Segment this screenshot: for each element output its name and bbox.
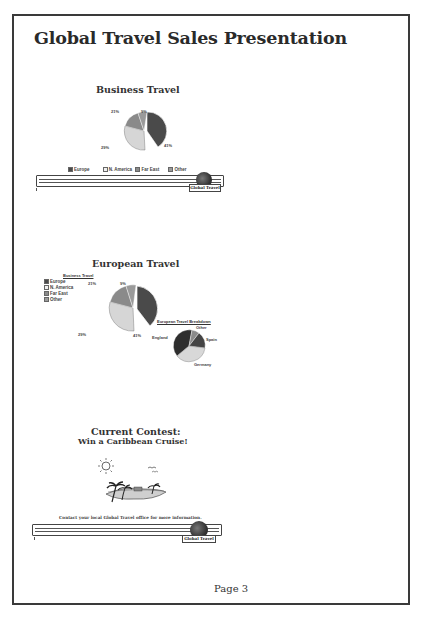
contact-text: Contact your local Global Travel office … [59,515,202,520]
legend-item-other: Other [44,297,73,303]
european-breakdown-pie-chart [169,326,209,366]
pie-label-far-east: 21% [111,109,119,114]
pie-label-england: England [152,335,168,340]
document-page: Global Travel Sales Presentation Busines… [12,14,410,605]
slide3-title-line2: Win a Caribbean Cruise! [78,436,188,446]
pie-label-europe: 41% [133,333,141,338]
pie-label-spain: Spain [206,337,217,342]
chart1-title: Business Travel [63,273,93,278]
pie-label-other: 9% [141,109,147,114]
document-title: Global Travel Sales Presentation [34,28,347,48]
pie-label-far-east: 21% [88,281,96,286]
pie-label-other: Other [196,325,207,330]
pie-label-n-america: 29% [78,332,86,337]
slide1-banner: Global Travel [36,172,226,194]
chart2-title: European Travel Breakdown [157,319,211,324]
pie-label-n-america: 29% [101,145,109,150]
slide3-banner: Global Travel [32,521,227,545]
pie-label-europe: 41% [164,143,172,148]
business-travel-legend-vertical: Europe N. America Far East Other [44,279,73,303]
european-business-pie-chart [98,278,168,338]
page-number: Page 3 [214,583,248,594]
pie-label-other: 9% [120,281,126,286]
banner-badge: Global Travel [189,184,221,192]
banner-badge: Global Travel [182,535,216,543]
slide1-title: Business Travel [96,84,180,95]
pie-label-germany: Germany [194,362,211,367]
slide2-title: European Travel [92,258,179,269]
caribbean-island-illustration [94,456,174,506]
